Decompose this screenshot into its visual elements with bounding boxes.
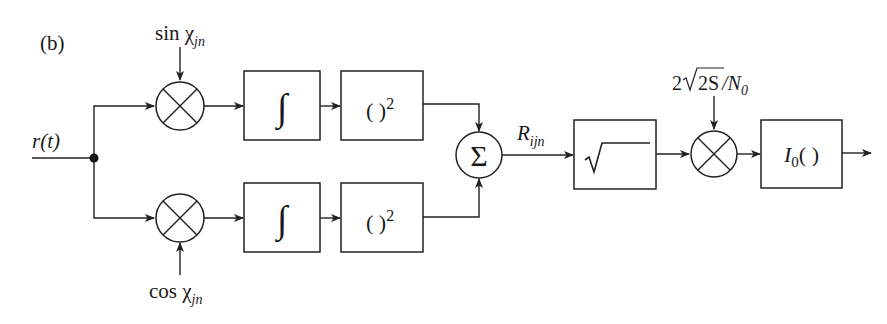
upper-mixer-label: sin χjn [155, 21, 205, 49]
panel-label: (b) [40, 31, 65, 55]
input-label: r(t) [32, 129, 60, 153]
lower-to-summer-line [423, 179, 479, 217]
svg-text:2S: 2S [698, 72, 719, 94]
svg-text:2: 2 [672, 72, 682, 94]
summer: Σ [456, 132, 502, 178]
sqrt-block [574, 120, 656, 189]
block-diagram: (b) r(t) sin χjn ∫ ( )2 cos χjn ∫ ( )2 Σ [0, 0, 887, 324]
gain-label: 2 2S /N0 [672, 68, 748, 98]
upper-multiplier [156, 82, 204, 130]
sum-output-label: Rijn [516, 121, 545, 149]
sigma-icon: Σ [470, 139, 487, 172]
bessel-label: I0( ) [783, 142, 819, 170]
lower-mixer-label: cos χjn [149, 279, 202, 307]
lower-branch-line [94, 158, 154, 218]
upper-branch-line [94, 106, 154, 158]
upper-to-summer-line [423, 104, 479, 131]
svg-text:sin χjn: sin χjn [155, 21, 205, 49]
svg-text:cos χjn: cos χjn [149, 279, 202, 307]
lower-multiplier [156, 194, 204, 242]
svg-text:/N0: /N0 [721, 72, 748, 98]
gain-multiplier [691, 131, 737, 177]
